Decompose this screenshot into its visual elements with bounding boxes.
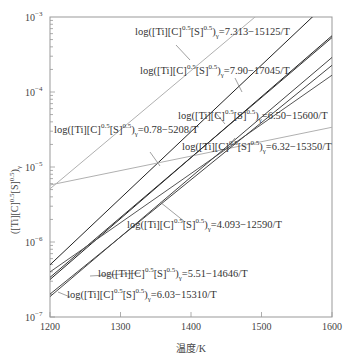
x-tick-1300: 1300 — [111, 321, 131, 332]
annotation-603: log([Ti][C]0.5[S]0.5)γ=6.03−15310/T — [67, 287, 217, 303]
chart: 10−3 10−4 10−5 10−6 10−7 1200 1300 1400 … — [0, 0, 352, 363]
x-axis-tick-labels: 1200 1300 1400 1500 1600 — [40, 321, 342, 332]
annotation-7313: log([Ti][C]0.5[S]0.5)γ=7.313−15125/T — [135, 24, 290, 40]
y-tick-1e-4: 10−4 — [25, 85, 43, 98]
annotation-650: log([Ti][C]0.5[S]0.5)γ=6.50−15600/T — [178, 108, 328, 124]
y-tick-1e-6: 10−6 — [25, 235, 43, 248]
annotation-551: log([Ti][C]0.5[S]0.5)γ=5.51−14646/T — [98, 266, 248, 282]
y-tick-1e-5: 10−5 — [25, 160, 43, 173]
series-line-7 — [50, 57, 332, 296]
x-tick-1500: 1500 — [252, 321, 272, 332]
annotations: log([Ti][C]0.5[S]0.5)γ=7.313−15125/T log… — [54, 24, 332, 303]
annotation-790: log([Ti][C]0.5[S]0.5)γ=7.90−17045/T — [140, 63, 290, 79]
annotation-078: log([Ti][C]0.5[S]0.5)γ=0.78−5208/T — [54, 122, 199, 138]
series-line-5 — [50, 75, 332, 272]
x-axis-ticks — [50, 312, 332, 317]
annotation-4093: log([Ti][C]0.5[S]0.5)γ=4.093−12590/T — [127, 217, 282, 233]
y-axis-ticks — [50, 20, 55, 317]
x-tick-1200: 1200 — [40, 321, 60, 332]
series-line-4 — [50, 38, 332, 278]
y-axis-label: ([Ti][C]0.5[S]0.5)γ — [8, 166, 23, 234]
x-tick-1400: 1400 — [181, 321, 201, 332]
y-tick-1e-3: 10−3 — [25, 10, 43, 23]
x-axis-label: 温度/K — [176, 342, 207, 354]
annotation-632: log([Ti][C]0.5[S]0.5)γ=6.32−15350/T — [182, 139, 332, 155]
series-line-3 — [50, 127, 332, 185]
y-axis-tick-labels: 10−3 10−4 10−5 10−6 10−7 — [25, 10, 43, 323]
series-line-6 — [50, 65, 332, 294]
x-tick-1600: 1600 — [322, 321, 342, 332]
